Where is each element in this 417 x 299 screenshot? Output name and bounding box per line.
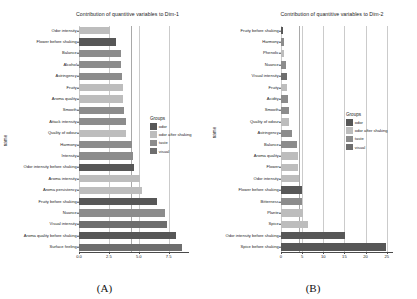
bar-row[interactable]: Smooth: [79, 106, 189, 115]
bar[interactable]: [281, 84, 287, 91]
bar-row[interactable]: Nuance: [79, 209, 189, 218]
bar-row[interactable]: Aroma quality: [281, 151, 393, 160]
bar[interactable]: [281, 152, 298, 159]
bar[interactable]: [281, 107, 289, 114]
x-tick-mark: [366, 252, 367, 254]
bar-row[interactable]: Aroma quality before shaking: [79, 231, 189, 240]
bar[interactable]: [79, 73, 122, 80]
y-tick-mark: [77, 64, 78, 65]
y-tick-mark: [279, 156, 280, 157]
bar[interactable]: [79, 198, 157, 205]
bar-row[interactable]: Alcohol: [79, 60, 189, 69]
bar[interactable]: [79, 244, 182, 251]
bar-row[interactable]: Acidity: [281, 94, 393, 103]
bar[interactable]: [79, 61, 121, 68]
bar-row[interactable]: Odor intensity: [281, 174, 393, 183]
legend-item[interactable]: odor after shaking: [346, 127, 388, 134]
bar[interactable]: [79, 187, 142, 194]
bar[interactable]: [79, 175, 140, 182]
bar[interactable]: [79, 221, 167, 228]
bar-category-label: Aroma quality: [52, 97, 77, 101]
x-tick-mark: [323, 252, 324, 254]
bar[interactable]: [281, 141, 297, 148]
y-tick-mark: [77, 213, 78, 214]
bar-row[interactable]: Spice: [281, 220, 393, 229]
bar[interactable]: [281, 118, 289, 125]
bar[interactable]: [281, 61, 286, 68]
bar-row[interactable]: Spice before shaking: [281, 242, 393, 251]
legend-item-label: taste: [159, 140, 168, 145]
y-tick-mark: [279, 213, 280, 214]
bar[interactable]: [281, 198, 302, 205]
bar-row[interactable]: Flower before shaking: [79, 37, 189, 46]
bar-category-label: Balance: [264, 143, 279, 147]
bar-row[interactable]: Fruity: [281, 83, 393, 92]
legend-item[interactable]: taste: [346, 136, 388, 143]
bar[interactable]: [79, 38, 116, 45]
legend-item[interactable]: visual: [150, 148, 192, 155]
bar[interactable]: [79, 141, 132, 148]
bar-row[interactable]: Fruity before shaking: [79, 197, 189, 206]
bar[interactable]: [79, 130, 126, 137]
bar[interactable]: [79, 50, 121, 57]
bar[interactable]: [281, 175, 299, 182]
bar-row[interactable]: Flower before shaking: [281, 185, 393, 194]
bar-category-label: Harmony: [60, 143, 77, 147]
bar-row[interactable]: Visual intensity: [79, 220, 189, 229]
bar[interactable]: [79, 232, 176, 239]
bar-row[interactable]: Visual intensity: [281, 72, 393, 81]
panel-a-title: Contribution of quantitive variables to …: [0, 11, 209, 17]
bar-row[interactable]: Odor intensity: [79, 26, 189, 35]
bar-row[interactable]: Balance: [79, 49, 189, 58]
y-tick-mark: [279, 247, 280, 248]
bar-row[interactable]: Fruity before shaking: [281, 26, 393, 35]
bar-row[interactable]: Fruity: [79, 83, 189, 92]
y-tick-mark: [279, 122, 280, 123]
legend-item[interactable]: visual: [346, 144, 388, 151]
bar-category-label: Flower before shaking: [239, 188, 279, 192]
bar[interactable]: [79, 84, 123, 91]
bar-row[interactable]: Plante: [281, 208, 393, 217]
bar[interactable]: [79, 95, 123, 102]
bar[interactable]: [281, 130, 292, 137]
legend-item[interactable]: odor: [346, 119, 388, 126]
bar-row[interactable]: Aroma quality: [79, 94, 189, 103]
bar[interactable]: [79, 164, 134, 171]
legend-item[interactable]: odor: [150, 123, 192, 130]
bar-row[interactable]: Flower: [281, 163, 393, 172]
bar-row[interactable]: Nuance: [281, 60, 393, 69]
bar-row[interactable]: Aroma persistency: [79, 186, 189, 195]
bar-row[interactable]: Astringency: [79, 72, 189, 81]
bar[interactable]: [281, 73, 287, 80]
bar[interactable]: [281, 186, 302, 193]
bar[interactable]: [281, 209, 303, 216]
legend-item[interactable]: taste: [150, 140, 192, 147]
y-tick-mark: [279, 190, 280, 191]
bar-row[interactable]: Bitterness: [281, 197, 393, 206]
bar-category-label: Fruity: [67, 86, 77, 90]
bar[interactable]: [281, 38, 284, 45]
legend-color-swatch: [346, 127, 353, 134]
bar[interactable]: [79, 118, 126, 125]
panel-b-legend: Groups odorodor after shakingtastevisual: [346, 112, 388, 152]
bar-row[interactable]: Odor intensity before shaking: [79, 163, 189, 172]
bar[interactable]: [79, 27, 110, 34]
bar-row[interactable]: Phenolic: [281, 49, 393, 58]
bar[interactable]: [79, 209, 165, 216]
bar[interactable]: [281, 243, 386, 250]
bar-row[interactable]: Surface feeling: [79, 243, 189, 252]
bar[interactable]: [281, 221, 308, 228]
bar[interactable]: [79, 107, 124, 114]
legend-item[interactable]: odor after shaking: [150, 131, 192, 138]
bar[interactable]: [281, 50, 284, 57]
bar[interactable]: [281, 232, 345, 239]
bar-row[interactable]: Aroma intensity: [79, 174, 189, 183]
bar[interactable]: [281, 95, 288, 102]
bar[interactable]: [281, 164, 298, 171]
bar-category-label: Odor intensity before shaking: [226, 234, 279, 238]
bar-row[interactable]: Odor intensity before shaking: [281, 231, 393, 240]
legend-item-label: odor: [355, 120, 363, 125]
bar[interactable]: [79, 152, 133, 159]
bar-row[interactable]: Harmony: [281, 37, 393, 46]
bar[interactable]: [281, 27, 283, 34]
